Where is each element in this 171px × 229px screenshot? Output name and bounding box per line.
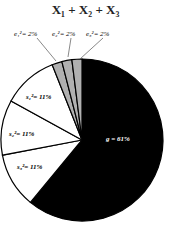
label-s1: s₁²= 11%: [25, 93, 52, 101]
label-s2: s₂²= 11%: [8, 130, 35, 138]
label-e2: e₂²= 2%: [52, 30, 76, 38]
pie-chart: e₁²= 2% e₂²= 2% e₃²= 2% s₁²= 11% s₂²= 11…: [0, 0, 171, 229]
label-s3: s₃²= 11%: [16, 163, 43, 171]
label-e3: e₃²= 2%: [86, 30, 110, 38]
label-e1: e₁²= 2%: [14, 30, 38, 38]
label-g: g = 61%: [105, 135, 130, 143]
